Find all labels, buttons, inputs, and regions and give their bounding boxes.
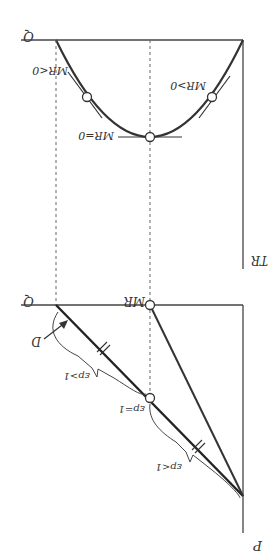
tr-mr-elasticity-diagram: Q TR MR>0 MR=0 MR<0 Q P MR D εp [0, 0, 279, 555]
label-mr-pos: MR>0 [170, 79, 207, 92]
point-unit-elastic [146, 394, 155, 403]
tr-q-label: Q [23, 29, 34, 44]
demand-label: D [31, 334, 42, 348]
demand-q-label: Q [23, 294, 34, 309]
tr-axis-label: TR [251, 253, 268, 267]
label-elastic: εp>1 [63, 371, 90, 382]
label-inelastic: εp<1 [155, 462, 182, 473]
demand-panel: Q P MR D εp>1 εp=1 εp<1 [21, 294, 263, 553]
point-mr-neg [83, 93, 92, 102]
brace-inelastic [150, 404, 240, 498]
label-mr-zero: MR=0 [78, 129, 115, 142]
label-unit-elastic: εp=1 [118, 404, 145, 415]
arrowhead-icon [59, 320, 68, 329]
label-mr-neg: MR<0 [32, 64, 69, 77]
point-mr-zero [146, 133, 155, 142]
p-axis-label: P [253, 538, 263, 553]
point-mr-intercept [146, 301, 155, 310]
tr-panel: Q TR MR>0 MR=0 MR<0 [21, 29, 268, 393]
mr-label: MR [124, 294, 146, 308]
point-mr-pos [208, 93, 217, 102]
